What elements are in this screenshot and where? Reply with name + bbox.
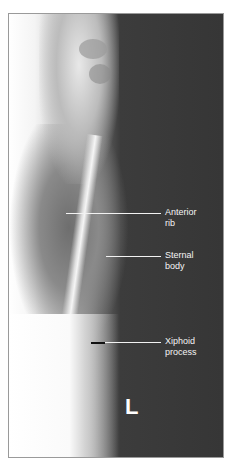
shoulder-region [39,14,119,184]
manubrium [89,64,111,84]
xiphoid-process-leader-line [105,342,161,343]
xiphoid-tick-mark [91,342,105,344]
sternal-body-label: Sternal body [165,250,194,272]
soft-tissue-lower [9,314,119,457]
xiphoid-process-label: Xiphoid process [165,336,197,358]
side-marker-left: L [125,394,138,420]
anterior-rib-leader-line [66,213,161,214]
anterior-rib-label: Anterior rib [165,207,197,229]
radiograph-frame: Anterior rib Sternal body Xiphoid proces… [8,13,224,458]
sternoclavicular-joint [79,39,107,59]
sternal-body-leader-line [106,256,161,257]
